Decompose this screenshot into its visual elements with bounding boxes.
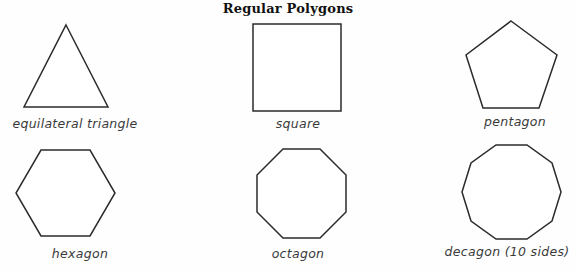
caption-hexagon: hexagon (0, 246, 160, 261)
hexagon-shape-icon (14, 147, 120, 241)
figure-equilateral-triangle (18, 22, 116, 114)
figure-square (251, 22, 345, 116)
triangle-polygon (24, 25, 108, 107)
pentagon-shape-icon (464, 18, 562, 113)
worksheet-canvas: Regular Polygons equilateral triangle sq… (0, 0, 576, 272)
figure-pentagon (464, 18, 562, 113)
triangle-shape-icon (18, 22, 116, 114)
pentagon-polygon (466, 21, 557, 108)
decagon-shape-icon (461, 142, 563, 243)
decagon-polygon (462, 145, 561, 239)
octagon-shape-icon (255, 146, 351, 243)
figure-hexagon (14, 147, 120, 241)
caption-decagon: decagon (10 sides) (438, 244, 576, 259)
hexagon-polygon (16, 150, 115, 236)
octagon-polygon (257, 149, 346, 238)
page-title: Regular Polygons (0, 1, 576, 16)
caption-octagon: octagon (243, 246, 353, 261)
square-shape-icon (251, 22, 345, 116)
figure-decagon (461, 142, 563, 243)
square-polygon (253, 24, 341, 111)
figure-octagon (255, 146, 351, 243)
caption-pentagon: pentagon (455, 114, 575, 129)
caption-square: square (243, 116, 353, 131)
caption-equilateral-triangle: equilateral triangle (0, 116, 150, 131)
